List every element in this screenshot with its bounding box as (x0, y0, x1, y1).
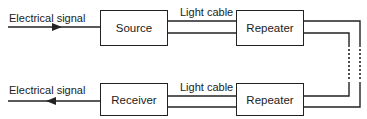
cable-bottom-label: Light cable (180, 82, 233, 93)
loop-inner-top (303, 33, 349, 47)
repeater-bottom-box: Repeater (236, 83, 304, 116)
input-arrow-icon (52, 23, 62, 31)
receiver-box: Receiver (100, 83, 168, 116)
source-box: Source (100, 10, 168, 46)
source-label: Source (116, 22, 152, 34)
cable-top-label: Light cable (180, 7, 233, 18)
receiver-label: Receiver (111, 94, 156, 106)
loop-outer-top (303, 21, 360, 47)
repeater-bottom-label: Repeater (246, 94, 293, 106)
input-signal-label: Electrical signal (9, 13, 85, 24)
repeater-top-label: Repeater (246, 22, 293, 34)
output-arrow-icon (46, 97, 56, 105)
output-signal-label: Electrical signal (9, 85, 85, 96)
loop-outer-bottom (303, 82, 360, 107)
repeater-top-box: Repeater (236, 10, 304, 46)
loop-inner-bottom (303, 82, 349, 96)
